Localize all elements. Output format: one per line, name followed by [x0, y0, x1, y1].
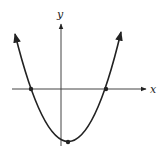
right-x-intercept-point [104, 87, 108, 91]
x-axis-label: x [150, 83, 157, 96]
parabola-curve [15, 32, 121, 142]
left-x-intercept-point [29, 87, 33, 91]
y-axis-label: y [56, 8, 64, 21]
parabola-graph: x y [0, 0, 168, 146]
vertex-point [66, 140, 70, 144]
